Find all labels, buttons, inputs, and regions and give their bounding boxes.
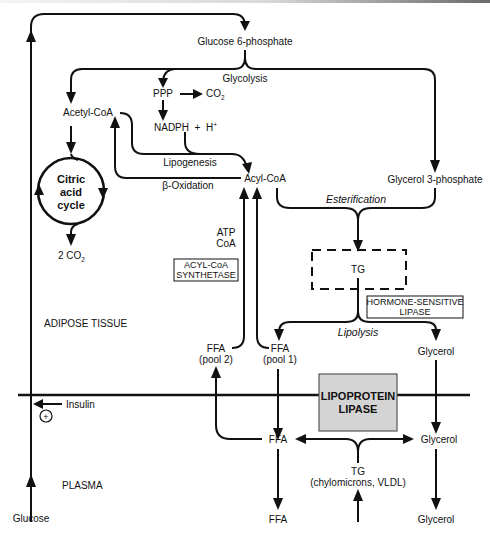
glycolysis-brace-right — [245, 58, 435, 160]
tg-plasma-to-glycerol — [358, 439, 405, 452]
arrow-head-glycerol3p — [430, 160, 440, 173]
arrow-head-insulin — [33, 399, 43, 409]
label-hsl-2: LIPASE — [400, 307, 431, 317]
arrow-head-acetylcoa — [66, 92, 76, 104]
label-adipose-tissue: ADIPOSE TISSUE — [44, 318, 128, 329]
label-atp: ATP — [217, 227, 236, 238]
arrow-head-ppp — [158, 78, 168, 88]
label-acetyl-coa: Acetyl-CoA — [63, 107, 113, 118]
label-tg-plasma: TG — [351, 466, 365, 477]
label-lipogenesis: Lipogenesis — [163, 157, 216, 168]
label-ffa-out: FFA — [269, 514, 288, 525]
arrow-head-glycerol-out — [431, 498, 441, 510]
arrow-head-tg-glycerol — [403, 434, 414, 444]
tg-plasma-to-ffa — [303, 439, 358, 463]
arrow-head-g6p — [240, 21, 250, 31]
label-acyl-coa-synthetase-2: SYNTHETASE — [176, 270, 235, 280]
label-insulin: Insulin — [66, 399, 95, 410]
arrow-head-co2 — [193, 89, 203, 99]
ffa-pool1-to-acylcoa — [257, 196, 269, 348]
label-cycle: cycle — [57, 199, 85, 211]
label-ffa-pool2: FFA — [207, 343, 226, 354]
label-plasma: PLASMA — [62, 480, 103, 491]
label-lpl-2: LIPASE — [339, 403, 378, 415]
label-tg-plasma-source: (chylomicrons, VLDL) — [310, 477, 406, 488]
label-coa: CoA — [216, 238, 236, 249]
plasma-ffa-to-pool2 — [216, 376, 262, 439]
arrow-head-glycerol-tissue — [431, 329, 441, 341]
label-ppp-co2: CO2 — [206, 88, 225, 101]
arrow-head-nadph — [158, 110, 168, 121]
label-hsl-1: HORMONE-SENSITIVE — [366, 297, 463, 307]
label-glycerol-tissue: Glycerol — [418, 346, 455, 357]
arrow-head-tca — [66, 142, 76, 154]
label-acyl-coa-synthetase-1: ACYL-CoA — [184, 260, 228, 270]
arrow-head-glucose-up-top — [26, 30, 36, 42]
label-glucose-6-phosphate: Glucose 6-phosphate — [197, 36, 293, 47]
pathway-diagram: Glucose 6-phosphate Glycolysis PPP CO2 N… — [0, 0, 490, 536]
label-ffa-pool1: FFA — [271, 343, 290, 354]
label-pool1: (pool 1) — [263, 354, 297, 365]
label-ppp: PPP — [153, 88, 173, 99]
arrow-head-glucose-up-bottom — [26, 474, 36, 487]
arrow-head-ffa-pool1 — [274, 329, 284, 341]
arrow-head-pool2 — [211, 366, 221, 378]
arrow-head-plasma-glycerol — [431, 422, 441, 434]
arrow-head-ffa-out — [273, 498, 283, 510]
label-acyl-coa: Acyl-CoA — [244, 173, 286, 184]
label-glucose: Glucose — [13, 513, 50, 524]
label-lipolysis: Lipolysis — [338, 326, 379, 338]
arrow-head-acylcoa-pool2 — [239, 187, 249, 199]
label-glycolysis: Glycolysis — [222, 73, 267, 84]
label-glycerol-plasma: Glycerol — [421, 434, 458, 445]
nadph-to-lipogenesis — [185, 132, 200, 154]
arrow-head-cycle-left — [34, 184, 44, 195]
arrow-head-2co2 — [66, 234, 76, 246]
label-acid: acid — [60, 186, 82, 198]
label-insulin-plus: + — [43, 412, 48, 422]
label-lpl-1: LIPOPROTEIN — [321, 390, 396, 402]
label-esterification: Esterification — [326, 193, 386, 205]
arrow-head-acylcoa-pool1 — [252, 187, 262, 199]
label-glycerol-out: Glycerol — [418, 514, 455, 525]
label-beta-oxidation: β-Oxidation — [162, 180, 213, 191]
arrow-head-tg-ffa — [295, 434, 306, 444]
label-2-co2: 2 CO2 — [58, 250, 85, 263]
label-pool2: (pool 2) — [199, 354, 233, 365]
label-citric: Citric — [57, 173, 85, 185]
label-glycerol-3-phosphate: Glycerol 3-phosphate — [387, 174, 482, 185]
label-tg-tissue: TG — [351, 264, 365, 275]
arrow-head-cycle-right — [98, 188, 108, 199]
label-nadph: NADPH + H+ — [154, 121, 217, 133]
label-ffa-plasma: FFA — [269, 434, 288, 445]
arrow-head-tg-input — [353, 489, 363, 501]
